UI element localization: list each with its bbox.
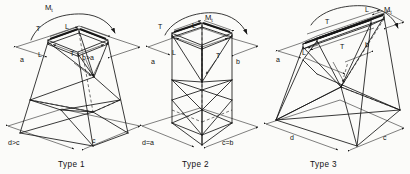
- force-label-T-top-3: T: [325, 18, 330, 25]
- caption-type-1: Type 1: [58, 160, 85, 169]
- force-label-L-inner-1: L: [38, 51, 42, 58]
- figure-canvas: Mt T L L T a b>a d>c c: [0, 0, 410, 174]
- dimension-label-c-2: c=b: [222, 139, 234, 146]
- force-label-T-top-2: T: [158, 23, 163, 30]
- interior-force-arrows-1: [74, 60, 100, 76]
- force-label-L-inner-2: L: [172, 49, 176, 56]
- panel-type-2: Mt T L L T a b d=a c=b: [142, 13, 258, 147]
- dimension-label-d-2: d=a: [142, 139, 154, 146]
- force-label-L-top-3: L: [365, 6, 369, 13]
- dimension-label-b-3: b: [365, 41, 369, 48]
- dimension-a-1: [16, 37, 47, 57]
- panel-type-3: Mt T L L T a b d c: [266, 5, 404, 150]
- force-label-L-top-2: L: [192, 22, 196, 29]
- dimension-label-d-3: d: [290, 134, 294, 141]
- dimension-label-a-1: a: [20, 56, 24, 63]
- dimension-label-a-3: a: [276, 56, 280, 63]
- force-arrow-T-top-3: [307, 10, 380, 34]
- dimension-label-a-2: a: [151, 58, 155, 65]
- base-dimension-3: [266, 100, 404, 150]
- force-label-L-inner-3: L: [302, 49, 306, 56]
- moment-label-1: Mt: [45, 3, 53, 13]
- force-label-T-inner-1: T: [70, 50, 75, 57]
- caption-type-3: Type 3: [310, 160, 337, 169]
- interior-force-arrow-3: [305, 52, 371, 82]
- interior-force-arrow-2: [206, 60, 216, 74]
- dimension-label-b-1: b>a: [82, 54, 94, 61]
- dimension-label-c-3: c: [383, 134, 387, 141]
- force-label-T-top-1: T: [36, 25, 41, 32]
- moment-label-3: Mt: [384, 5, 392, 15]
- dimension-label-c-1: c: [92, 137, 96, 144]
- base-dimension-2: [142, 108, 258, 147]
- dimension-b-1: [110, 37, 140, 57]
- moment-arc-1: [31, 14, 115, 40]
- dimension-label-d-1: d>c: [8, 139, 20, 146]
- panel-type-1: Mt T L L T a b>a d>c c: [8, 3, 140, 149]
- force-arrow-L-top-3: [372, 11, 383, 15]
- force-label-L-top-1: L: [65, 23, 69, 30]
- caption-type-2: Type 2: [182, 160, 209, 169]
- dimension-label-b-2: b: [236, 58, 240, 65]
- force-label-T-inner-3: T: [340, 43, 345, 50]
- force-label-T-inner-2: T: [216, 52, 221, 59]
- diagram-sheet: Mt T L L T a b>a d>c c: [0, 0, 410, 174]
- moment-label-2: Mt: [205, 13, 213, 23]
